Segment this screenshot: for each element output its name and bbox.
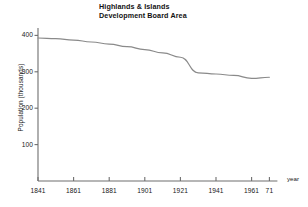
axes (35, 28, 278, 181)
plot-area (0, 0, 308, 207)
population-line-chart: Highlands & IslandsDevelopment Board Are… (0, 0, 308, 207)
population-data-line (38, 38, 269, 78)
